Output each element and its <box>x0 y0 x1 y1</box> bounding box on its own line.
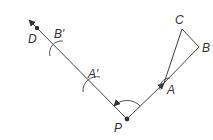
label-a: A <box>166 83 175 97</box>
label-d: D <box>28 32 37 46</box>
geometry-diagram: D B′ A′ P A B C <box>0 0 213 140</box>
label-a-prime: A′ <box>87 67 99 81</box>
label-c: C <box>175 13 184 27</box>
label-p: P <box>114 121 122 135</box>
ray-pd <box>29 20 127 119</box>
triangle-abc <box>164 29 199 83</box>
label-b-prime: B′ <box>54 27 65 41</box>
angle-arc-icon <box>114 100 140 106</box>
point-d-dot <box>35 26 39 30</box>
label-b: B <box>202 41 210 55</box>
point-p-dot <box>125 117 130 122</box>
